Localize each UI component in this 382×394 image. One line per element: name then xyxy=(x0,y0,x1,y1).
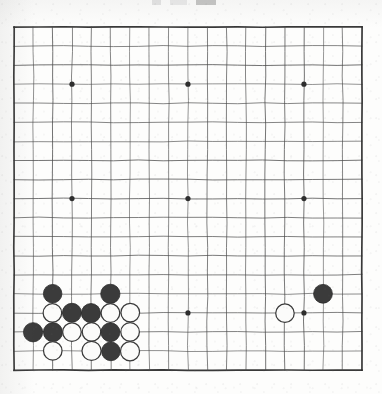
white-stone[interactable] xyxy=(276,304,294,322)
white-stone[interactable] xyxy=(121,342,140,361)
black-stone[interactable] xyxy=(43,284,62,303)
white-stone[interactable] xyxy=(44,342,63,361)
star-point xyxy=(185,82,190,87)
star-point xyxy=(301,196,306,201)
white-stone[interactable] xyxy=(82,323,101,342)
star-point xyxy=(301,310,306,315)
star-point xyxy=(301,82,306,87)
board-grid-line xyxy=(168,27,169,370)
star-point xyxy=(185,310,190,315)
board-grid-line xyxy=(265,27,266,370)
black-stone[interactable] xyxy=(81,304,100,323)
go-board[interactable] xyxy=(0,0,382,394)
black-stone[interactable] xyxy=(62,303,81,322)
star-point xyxy=(185,196,190,201)
star-point xyxy=(69,196,74,201)
black-stone[interactable] xyxy=(102,342,121,361)
star-point xyxy=(69,82,74,87)
board-border-line xyxy=(14,370,362,371)
black-stone[interactable] xyxy=(43,323,62,342)
black-stone[interactable] xyxy=(101,284,120,303)
white-stone[interactable] xyxy=(101,304,120,323)
white-stone[interactable] xyxy=(63,323,82,342)
white-stone[interactable] xyxy=(121,323,140,342)
board-grid-line xyxy=(14,293,362,294)
white-stone[interactable] xyxy=(121,303,140,322)
stones-group[interactable] xyxy=(23,284,332,361)
black-stone[interactable] xyxy=(314,284,333,303)
white-stone[interactable] xyxy=(43,304,62,323)
black-stone[interactable] xyxy=(101,323,120,342)
white-stone[interactable] xyxy=(82,341,101,360)
black-stone[interactable] xyxy=(23,323,42,342)
diagram-page xyxy=(0,0,382,394)
